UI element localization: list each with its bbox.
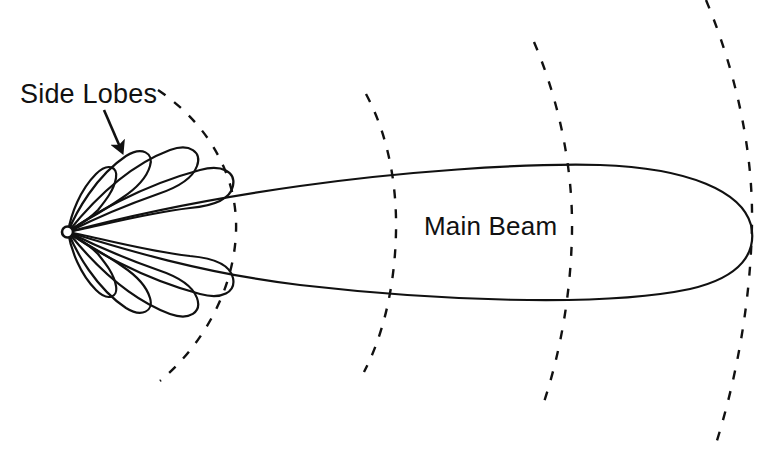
dashed-arc-1 xyxy=(158,90,236,381)
side-lobes-arrow xyxy=(104,110,120,147)
main-beam-lobe xyxy=(68,165,752,300)
main-beam-outline xyxy=(68,165,752,300)
figure-canvas: Side Lobes Main Beam xyxy=(0,0,776,450)
antenna-origin-point xyxy=(62,227,73,238)
main-beam-label: Main Beam xyxy=(424,211,557,242)
dashed-arc-4 xyxy=(706,0,752,450)
dashed-arc-2 xyxy=(364,94,396,372)
side-lobes xyxy=(68,148,233,317)
side-lobes-label: Side Lobes xyxy=(20,79,157,110)
antenna-pattern-svg xyxy=(0,0,776,450)
